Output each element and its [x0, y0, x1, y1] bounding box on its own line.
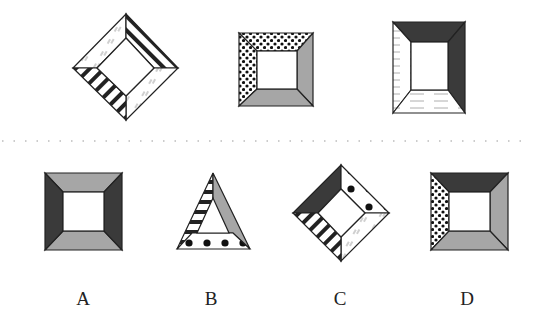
question-figure-1 — [73, 14, 178, 120]
option-c-label[interactable]: C — [325, 288, 355, 310]
inner-window — [411, 42, 448, 90]
option-a-figure[interactable] — [45, 173, 122, 250]
puzzle-canvas — [0, 0, 533, 331]
option-b-figure[interactable] — [177, 173, 250, 249]
option-b-label[interactable]: B — [196, 288, 226, 310]
inner-window — [257, 51, 297, 89]
option-a-label[interactable]: A — [68, 288, 98, 310]
question-figure-3 — [393, 22, 465, 113]
inner-window — [63, 192, 104, 231]
question-figure-2 — [239, 33, 313, 106]
inner-window — [449, 192, 490, 231]
option-d-figure[interactable] — [431, 173, 508, 250]
option-c-figure[interactable] — [293, 165, 389, 261]
option-d-label[interactable]: D — [452, 288, 482, 310]
